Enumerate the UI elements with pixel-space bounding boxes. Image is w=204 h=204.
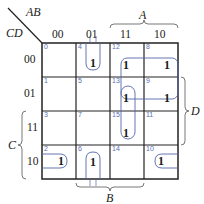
kmap-cell-6: 6 1: [76, 145, 110, 179]
kmap-cell-10: 10 1: [144, 145, 178, 179]
col-header-01: 01: [86, 28, 98, 40]
col-header-10: 10: [154, 28, 166, 40]
kmap-cell-2: 2 1: [42, 145, 76, 179]
cell-value: 1: [164, 58, 170, 73]
minterm-index: 6: [78, 145, 82, 152]
minterm-index: 1: [44, 77, 48, 84]
minterm-index: 5: [78, 77, 82, 84]
cell-value: 1: [158, 154, 164, 169]
kmap-cell-4: 4 1: [76, 43, 110, 77]
row-header-10: 10: [27, 155, 39, 167]
kmap-cell-12: 12 1: [110, 43, 144, 77]
minterm-index: 0: [44, 43, 48, 50]
minterm-index: 13: [112, 77, 120, 84]
cell-value: 1: [90, 155, 96, 170]
kmap-cell-14: 14: [110, 145, 144, 179]
minterm-index: 15: [112, 111, 120, 118]
kmap-cell-3: 3: [42, 111, 76, 145]
row-header-11: 11: [27, 121, 38, 133]
kmap-cell-5: 5: [76, 77, 110, 111]
brace-label-a: A: [139, 8, 146, 23]
brace-label-b: B: [106, 191, 113, 204]
col-var-label: AB: [26, 5, 41, 20]
kmap-cell-13: 13 1: [110, 77, 144, 111]
brace-label-c: C: [8, 138, 16, 153]
minterm-index: 12: [112, 43, 120, 50]
col-header-11: 11: [120, 28, 131, 40]
cell-value: 1: [90, 56, 96, 71]
col-header-00: 00: [52, 28, 64, 40]
kmap-cell-8: 8 1: [144, 43, 178, 77]
minterm-index: 11: [146, 111, 153, 118]
kmap-cell-0: 0: [42, 43, 76, 77]
kmap-cell-1: 1: [42, 77, 76, 111]
minterm-index: 10: [146, 145, 154, 152]
minterm-index: 2: [44, 145, 48, 152]
cell-value: 1: [123, 126, 129, 141]
minterm-index: 9: [146, 77, 150, 84]
cell-value: 1: [58, 154, 64, 169]
kmap-cell-15: 15 1: [110, 111, 144, 145]
cell-value: 1: [164, 91, 170, 106]
cell-value: 1: [123, 58, 129, 73]
kmap-cell-9: 9 1: [144, 77, 178, 111]
minterm-index: 7: [78, 111, 82, 118]
brace-label-d: D: [191, 104, 200, 119]
minterm-index: 8: [146, 43, 150, 50]
minterm-index: 4: [78, 43, 82, 50]
row-header-01: 01: [24, 87, 36, 99]
row-var-label: CD: [6, 26, 23, 41]
row-header-00: 00: [24, 53, 36, 65]
kmap-cell-7: 7: [76, 111, 110, 145]
kmap-cell-11: 11: [144, 111, 178, 145]
minterm-index: 14: [112, 145, 120, 152]
cell-value: 1: [123, 91, 129, 106]
minterm-index: 3: [44, 111, 48, 118]
